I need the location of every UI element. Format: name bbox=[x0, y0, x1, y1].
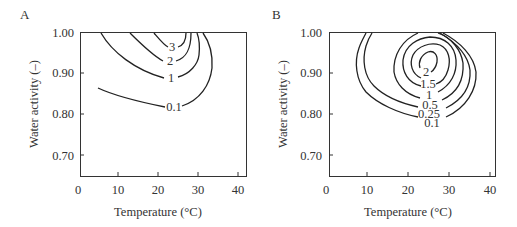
contour-plot-a: A 1.00 0.90 0.80 0.70 0 10 20 30 40 Temp… bbox=[0, 0, 258, 227]
y-tick-label: 0.80 bbox=[300, 107, 322, 121]
contour-plot-b: B 1.00 0.90 0.80 0.70 0 10 20 30 40 Temp… bbox=[258, 0, 516, 227]
x-axis-label: Temperature (°C) bbox=[114, 205, 202, 219]
panel-letter-a: A bbox=[20, 7, 30, 22]
x-tick-label: 40 bbox=[232, 183, 245, 197]
contour-line-2 bbox=[130, 33, 191, 61]
x-tick-label: 10 bbox=[361, 183, 374, 197]
x-tick-label: 20 bbox=[152, 183, 165, 197]
contour-label: 3 bbox=[169, 40, 175, 54]
contour-line-0-1 bbox=[98, 33, 212, 107]
x-axis-label: Temperature (°C) bbox=[364, 205, 452, 219]
plot-frame-a bbox=[81, 33, 247, 177]
y-tick-label: 0.70 bbox=[300, 149, 322, 163]
y-tick-label: 0.90 bbox=[300, 66, 322, 80]
x-tick-label: 40 bbox=[484, 183, 497, 197]
y-tick-label: 1.00 bbox=[52, 26, 74, 40]
y-tick-label: 0.70 bbox=[52, 149, 74, 163]
y-axis-label: Water activity (–) bbox=[27, 60, 41, 148]
plot-frame-b bbox=[330, 33, 496, 177]
plot-b-svg: B 1.00 0.90 0.80 0.70 0 10 20 30 40 Temp… bbox=[258, 0, 517, 227]
y-tick-label: 1.00 bbox=[300, 26, 322, 40]
x-tick-label: 0 bbox=[75, 183, 81, 197]
contour-label: 1 bbox=[168, 71, 174, 85]
contour-label: 2 bbox=[167, 54, 173, 68]
plot-a-svg: A 1.00 0.90 0.80 0.70 0 10 20 30 40 Temp… bbox=[0, 0, 258, 227]
x-tick-label: 10 bbox=[112, 183, 125, 197]
x-tick-label: 30 bbox=[192, 183, 205, 197]
x-tick-label: 20 bbox=[402, 183, 415, 197]
x-tick-label: 0 bbox=[323, 183, 329, 197]
panel-letter-b: B bbox=[272, 7, 281, 22]
y-tick-label: 0.80 bbox=[52, 107, 74, 121]
contour-label: 0.1 bbox=[424, 116, 440, 130]
x-tick-label: 30 bbox=[443, 183, 456, 197]
y-axis-label: Water activity (–) bbox=[276, 60, 290, 148]
y-tick-label: 0.90 bbox=[52, 66, 74, 80]
contour-label: 0.1 bbox=[166, 100, 182, 114]
